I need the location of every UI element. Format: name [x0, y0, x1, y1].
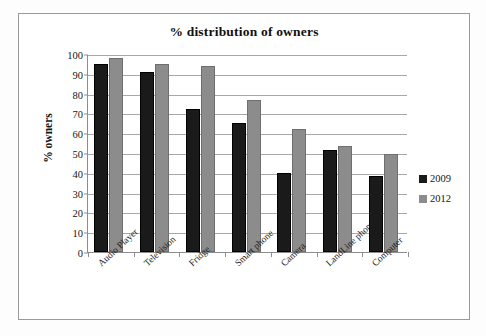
- bar-2012-smart-phone: [247, 100, 261, 252]
- y-tick-label: 70: [73, 109, 84, 120]
- y-tick-label: 40: [73, 168, 84, 179]
- y-axis-title: % owners: [42, 93, 54, 183]
- legend-item-2012[interactable]: 2012: [419, 194, 451, 205]
- legend-label: 2009: [430, 174, 451, 185]
- y-tick-label: 100: [67, 50, 83, 61]
- legend-swatch-icon: [419, 195, 427, 203]
- bar-2009-landline-phones: [323, 150, 337, 252]
- y-tick-label: 90: [73, 69, 84, 80]
- plot-area: 0102030405060708090100: [87, 55, 407, 253]
- legend-swatch-icon: [419, 175, 427, 183]
- bar-2009-computer: [369, 176, 383, 252]
- x-tick-mark: [362, 252, 363, 257]
- y-tick-label: 60: [73, 129, 84, 140]
- bar-2009-television: [140, 72, 154, 252]
- bar-2009-audio-player: [94, 64, 108, 252]
- bars-layer: [88, 55, 407, 252]
- y-tick-label: 50: [73, 149, 84, 160]
- x-tick-mark: [317, 252, 318, 257]
- chart-legend: 20092012: [419, 174, 451, 213]
- x-tick-mark: [225, 252, 226, 257]
- x-tick-mark: [134, 252, 135, 257]
- bar-2012-camera: [292, 129, 306, 252]
- bar-2009-smart-phone: [232, 123, 246, 252]
- bar-2012-television: [155, 64, 169, 252]
- bar-2012-audio-player: [109, 58, 123, 252]
- y-tick-label: 80: [73, 89, 84, 100]
- legend-label: 2012: [430, 194, 451, 205]
- y-tick-label: 10: [73, 228, 84, 239]
- x-tick-mark: [408, 252, 409, 257]
- chart-page: % distribution of owners % owners 010203…: [0, 0, 486, 336]
- chart-frame: % distribution of owners % owners 010203…: [18, 13, 470, 320]
- legend-item-2009[interactable]: 2009: [419, 174, 451, 185]
- y-tick-label: 0: [78, 248, 83, 259]
- y-tick-label: 20: [73, 208, 84, 219]
- bar-2009-fridge: [186, 109, 200, 252]
- bar-2012-fridge: [201, 66, 215, 252]
- y-tick-label: 30: [73, 188, 84, 199]
- chart-title: % distribution of owners: [19, 24, 469, 40]
- bar-2009-camera: [277, 173, 291, 252]
- x-tick-mark: [271, 252, 272, 257]
- x-tick-mark: [179, 252, 180, 257]
- x-tick-mark: [88, 252, 89, 257]
